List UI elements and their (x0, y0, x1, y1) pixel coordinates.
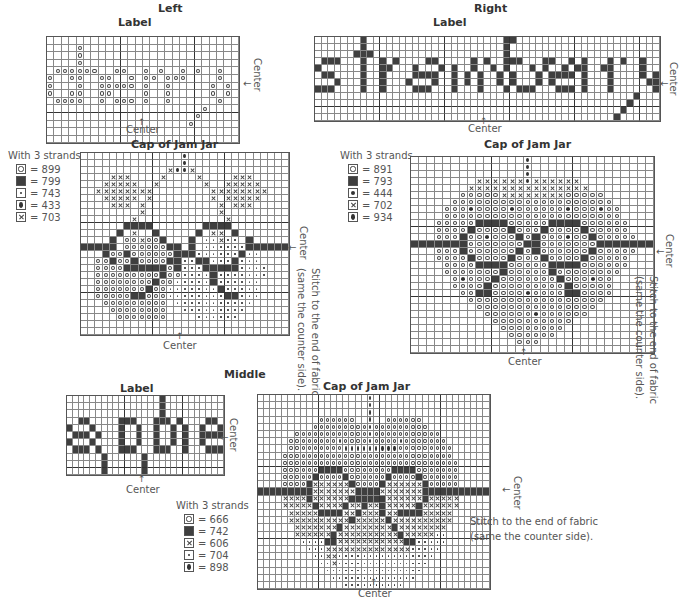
filled-square-icon (184, 526, 194, 536)
stitch-cell (189, 300, 196, 307)
legend-item: = 891 (348, 163, 413, 175)
stitch-cell (483, 575, 489, 582)
stitch-cell (261, 181, 268, 188)
stitch-cell (443, 318, 451, 325)
stitch-cell (483, 546, 489, 553)
stitch-cell (468, 157, 476, 164)
stitch-cell (203, 314, 210, 321)
right-label-center-bottom: Center (468, 123, 502, 134)
stitch-cell (411, 213, 419, 220)
stitch-cell (106, 60, 113, 68)
stitch-cell (225, 181, 232, 188)
stitch-cell (411, 339, 419, 346)
stitch-cell (460, 311, 468, 318)
stitch-cell (136, 98, 143, 106)
stitch-cell (500, 276, 508, 283)
stitch-cell (95, 244, 102, 251)
stitch-cell (484, 234, 492, 241)
stitch-cell (541, 157, 549, 164)
stitch-cell (88, 293, 95, 300)
stitch-cell (427, 339, 435, 346)
stitch-cell (557, 164, 565, 171)
stitch-cell (150, 37, 157, 45)
stitch-cell (81, 174, 88, 181)
stitch-cell (158, 37, 165, 45)
stitch-cell (282, 174, 289, 181)
stitch-cell (573, 248, 581, 255)
stitch-cell (121, 136, 128, 144)
stitch-cell (435, 304, 443, 311)
stitch-cell (136, 52, 143, 60)
stitch-cell (443, 241, 451, 248)
stitch-cell (232, 90, 239, 98)
stitch-cell (597, 346, 605, 353)
stitch-cell (225, 167, 232, 174)
stitch-cell (476, 290, 484, 297)
stitch-cell (476, 255, 484, 262)
stitch-cell (261, 209, 268, 216)
stitch-cell (218, 425, 224, 432)
stitch-cell (254, 153, 261, 160)
legend-code: = 742 (198, 526, 229, 537)
stitch-cell (557, 304, 565, 311)
stitch-cell (180, 105, 187, 113)
stitch-cell (492, 276, 500, 283)
stitch-cell (275, 160, 282, 167)
stitch-cell (516, 311, 524, 318)
stitch-cell (62, 75, 69, 83)
stitch-cell (69, 75, 76, 83)
stitch-cell (435, 206, 443, 213)
stitch-cell (268, 160, 275, 167)
stitch-cell (532, 164, 540, 171)
stitch-cell (597, 234, 605, 241)
stitch-cell (210, 279, 217, 286)
stitch-cell (557, 290, 565, 297)
stitch-cell (613, 164, 621, 171)
stitch-cell (110, 265, 117, 272)
stitch-cell (203, 195, 210, 202)
stitch-cell (114, 60, 121, 68)
stitch-cell (516, 262, 524, 269)
stitch-cell (573, 199, 581, 206)
stitch-cell (476, 220, 484, 227)
stitch-cell (597, 206, 605, 213)
stitch-cell (419, 276, 427, 283)
stitch-cell (117, 321, 124, 328)
stitch-cell (150, 98, 157, 106)
stitch-cell (160, 286, 167, 293)
stitch-cell (557, 206, 565, 213)
stitch-cell (589, 220, 597, 227)
stitch-cell (613, 269, 621, 276)
stitch-cell (158, 113, 165, 121)
stitch-cell (646, 269, 654, 276)
stitch-cell (557, 171, 565, 178)
stitch-cell (239, 237, 246, 244)
stitch-cell (443, 311, 451, 318)
stitch-cell (581, 171, 589, 178)
stitch-cell (565, 241, 573, 248)
stitch-cell (124, 153, 131, 160)
stitch-cell (167, 174, 174, 181)
stitch-cell (84, 60, 91, 68)
stitch-cell (225, 314, 232, 321)
stitch-cell (638, 234, 646, 241)
stitch-cell (516, 241, 524, 248)
stitch-cell (210, 45, 217, 53)
stitch-cell (460, 178, 468, 185)
stitch-cell (114, 98, 121, 106)
middle-cap-side-note-1: Stitch to the end of fabric (470, 516, 598, 527)
stitch-cell (117, 258, 124, 265)
stitch-cell (589, 346, 597, 353)
legend-code: = 703 (30, 212, 61, 223)
stitch-cell (605, 234, 613, 241)
open-circle-icon (184, 514, 194, 524)
cross-icon (348, 200, 358, 210)
stitch-cell (524, 339, 532, 346)
stitch-cell (167, 321, 174, 328)
stitch-cell (557, 227, 565, 234)
stitch-cell (492, 255, 500, 262)
arrow-up-icon: ↑ (520, 348, 528, 356)
stitch-cell (182, 216, 189, 223)
legend-heading: With 3 strands (8, 150, 81, 161)
stitch-cell (411, 346, 419, 353)
